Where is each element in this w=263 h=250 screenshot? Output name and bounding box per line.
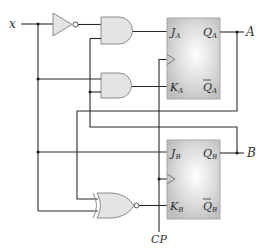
xnor-gate [93, 193, 139, 218]
flip-flop-a: JA KA QA QA [167, 18, 220, 99]
input-x-label: x [9, 17, 16, 31]
junction-dot [158, 178, 161, 181]
output-a-label: A [245, 25, 255, 39]
flip-flop-b: JB KB QB QB [167, 140, 220, 219]
and-gate-1 [101, 17, 133, 44]
wire-clock [159, 60, 167, 233]
clock-label: CP [151, 233, 167, 246]
junction-dot [37, 78, 40, 81]
and-gate-2 [101, 73, 132, 98]
junction-dot [236, 31, 239, 34]
junction-dot [236, 152, 239, 155]
not-gate [53, 13, 78, 36]
output-b-label: B [246, 146, 256, 160]
junction-dot [37, 151, 40, 154]
circuit-diagram: x CP JA KA QA QA [0, 0, 263, 250]
